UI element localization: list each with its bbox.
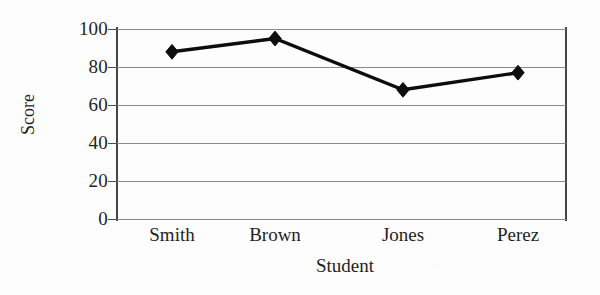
x-axis-baseline: [117, 219, 566, 220]
plot-area: [117, 29, 566, 219]
x-tick-label-jones: Jones: [382, 224, 424, 246]
data-series-layer: [117, 29, 566, 219]
y-tick-label-80: 80: [89, 57, 108, 76]
x-tick-label-perez: Perez: [497, 224, 539, 246]
data-point-marker-perez: [512, 65, 524, 80]
y-tick-mark-20: [108, 181, 117, 182]
y-tick-label-20: 20: [89, 171, 108, 190]
x-axis-title: Student: [0, 255, 600, 277]
y-tick-label-0: 0: [98, 209, 108, 228]
y-tick-label-40: 40: [89, 133, 108, 152]
y-tick-label-60: 60: [89, 95, 108, 114]
y-tick-mark-60: [108, 105, 117, 106]
series-markers-score: [166, 31, 524, 97]
data-point-marker-smith: [166, 44, 178, 59]
x-axis-tick-labels: Smith Brown Jones Perez: [117, 224, 566, 250]
y-axis-tick-labels: 100 80 60 40 20 0: [40, 29, 108, 219]
y-tick-mark-40: [108, 143, 117, 144]
x-tick-label-brown: Brown: [249, 224, 301, 246]
data-point-marker-brown: [269, 31, 281, 46]
y-tick-mark-80: [108, 67, 117, 68]
y-tick-label-100: 100: [79, 19, 108, 38]
series-line-score: [172, 39, 518, 90]
data-point-marker-jones: [397, 82, 409, 97]
y-axis-title: Score: [18, 65, 39, 165]
line-chart-figure: 100 80 60 40 20 0 Score Smith Brown Jone…: [0, 0, 600, 295]
y-tick-mark-0: [108, 219, 117, 220]
y-tick-mark-100: [108, 29, 117, 30]
x-tick-label-smith: Smith: [149, 224, 194, 246]
